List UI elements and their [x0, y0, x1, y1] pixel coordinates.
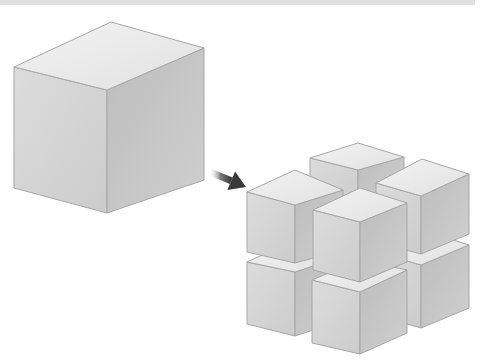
- cube-left-face: [247, 262, 295, 336]
- cube-left-face: [14, 67, 107, 213]
- large-cube: [14, 22, 204, 213]
- cube-left-face: [312, 280, 360, 354]
- cube-split-diagram: [0, 0, 481, 364]
- arrow-shaft: [209, 169, 233, 184]
- large-cube-shape: [14, 22, 204, 213]
- small-cubes-group: [247, 143, 469, 354]
- arrow-icon: [209, 169, 246, 190]
- cube-left-face: [313, 210, 360, 282]
